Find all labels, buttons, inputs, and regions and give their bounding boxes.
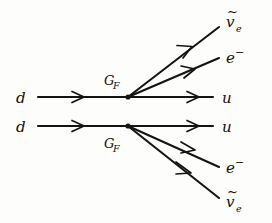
electron-bottom-superscript: − — [235, 156, 244, 169]
antineutrino-bottom-subscript: e — [236, 203, 242, 214]
coupling-bottom-subscript: F — [112, 143, 120, 154]
label-antineutrino-top: ~ v e — [226, 4, 242, 34]
antineutrino-bottom-base: v — [226, 193, 235, 211]
label-electron-bottom: e − — [226, 156, 244, 177]
arrowhead-antineutrino-outgoing-top — [177, 46, 192, 59]
label-d-incoming-bottom: d — [16, 118, 26, 136]
vertex-point-top — [125, 94, 130, 99]
feynman-diagram-canvas: d d u u ~ v e e − e − ~ v e G — [0, 0, 272, 223]
antineutrino-top-base: v — [226, 13, 235, 31]
vertex-point-bottom — [125, 123, 130, 128]
label-coupling-bottom: G F — [104, 136, 120, 154]
antineutrino-top-subscript: e — [236, 23, 242, 34]
electron-top-base: e — [226, 49, 235, 67]
electron-top-superscript: − — [235, 46, 244, 59]
line-electron-outgoing-top — [128, 58, 219, 97]
line-antineutrino-outgoing-top — [128, 27, 219, 97]
label-coupling-top: G F — [104, 73, 120, 91]
arrowhead-antineutrino-outgoing-bottom — [176, 162, 191, 174]
label-u-outgoing-top: u — [222, 89, 232, 107]
label-u-outgoing-bottom: u — [222, 118, 232, 136]
label-d-incoming-top: d — [16, 89, 26, 107]
feynman-diagram-svg: d d u u ~ v e e − e − ~ v e G — [0, 0, 272, 223]
coupling-top-subscript: F — [112, 80, 120, 91]
label-electron-top: e − — [226, 46, 244, 67]
label-antineutrino-bottom: ~ v e — [226, 184, 242, 214]
electron-bottom-base: e — [226, 159, 235, 177]
